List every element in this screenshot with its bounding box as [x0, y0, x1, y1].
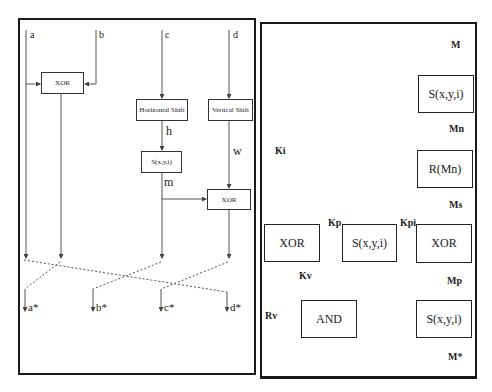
output-d-star-label: d* — [230, 302, 241, 313]
edge-label-w: w — [233, 145, 242, 157]
edge-label-h: h — [166, 125, 172, 137]
edge-label-Kv: Kv — [299, 271, 312, 281]
edge-label-Mp: Mp — [447, 276, 462, 286]
edge-label-Kpi: Kpi — [400, 218, 416, 228]
input-a-label: a — [30, 30, 34, 40]
s-box-bottom: S(x,y,i) — [416, 300, 472, 338]
s-box-top: S(x,y,i) — [418, 75, 474, 113]
output-a-star-label: a* — [28, 302, 38, 313]
edge-label-Ki: Ki — [275, 146, 286, 156]
input-c-label: c — [165, 30, 169, 40]
xor-box-right: XOR — [416, 224, 472, 263]
edge-label-M-star: M* — [448, 352, 462, 362]
vertical-shift-box: Vertical Shift — [208, 99, 253, 121]
edge-label-Mn: Mn — [449, 124, 464, 134]
xor-box-bottom: XOR — [207, 189, 251, 210]
edge-label-Kp: Kp — [328, 218, 341, 228]
edge-label-Ms: Ms — [449, 200, 462, 210]
horizontal-shift-box: Horizontal Shift — [136, 99, 188, 121]
xor-box-left: XOR — [264, 224, 320, 262]
edge-label-m: m — [164, 176, 173, 188]
xor-box-top: XOR — [41, 72, 84, 94]
s-box-left: S(x,y,i) — [141, 151, 182, 173]
output-b-star-label: b* — [96, 302, 107, 313]
input-d-label: d — [233, 30, 238, 40]
s-box-middle: S(x,y,i) — [342, 224, 397, 262]
input-b-label: b — [99, 30, 104, 40]
and-box: AND — [301, 300, 357, 338]
output-c-star-label: c* — [164, 302, 174, 313]
r-mn-box: R(Mn) — [417, 150, 473, 188]
edge-label-Rv: Rv — [265, 311, 277, 321]
edge-label-M: M — [451, 40, 460, 50]
